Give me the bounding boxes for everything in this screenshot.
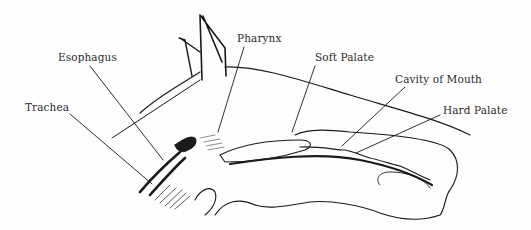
label-trachea: Trachea <box>25 101 69 113</box>
neck-line <box>112 80 200 138</box>
ear-outline <box>200 15 226 80</box>
throat-curve <box>195 189 255 215</box>
label-hard-palate: Hard Palate <box>443 104 508 116</box>
palate-base <box>230 156 432 185</box>
anatomy-diagram: Esophagus Trachea Pharynx Soft Palate Ca… <box>0 0 531 230</box>
leader-trachea <box>70 114 152 184</box>
label-cavity-of-mouth: Cavity of Mouth <box>395 73 482 85</box>
leader-soft-palate <box>292 66 315 132</box>
label-soft-palate: Soft Palate <box>315 51 374 63</box>
label-pharynx: Pharynx <box>237 32 281 44</box>
muzzle-outline <box>255 130 458 219</box>
ear-inner <box>179 38 200 76</box>
label-esophagus: Esophagus <box>58 51 117 63</box>
pharynx-mass <box>175 137 196 152</box>
neck-hatching <box>155 185 190 209</box>
pharynx-hatching <box>200 135 224 150</box>
leader-esophagus <box>90 66 163 160</box>
trachea-tube <box>140 152 185 195</box>
